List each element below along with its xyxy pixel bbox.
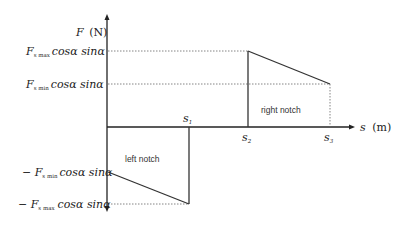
right-notch-shape [248, 51, 330, 127]
x-axis-arrow-right-icon [349, 125, 355, 130]
force-displacement-diagram: F (N) s (m) Fs maxcosα sinα Fs mincosα s… [0, 0, 401, 239]
x-tick-s1: s1 [183, 112, 192, 125]
x-axis-label: s (m) [360, 121, 391, 134]
x-axis [107, 125, 355, 130]
y-tick-neg-min: − Fs mincosα sinα [22, 166, 113, 179]
left-notch-shape [108, 127, 189, 204]
y-axis [105, 14, 110, 212]
left-notch-label: left notch [125, 154, 160, 164]
y-tick-neg-max: − Fs maxcosα sinα [18, 198, 111, 211]
y-tick-pos-max: Fs maxcosα sinα [25, 45, 105, 58]
y-axis-label: F (N) [75, 26, 107, 39]
y-axis-arrow-up-icon [105, 14, 110, 20]
right-notch-label: right notch [261, 105, 301, 115]
x-tick-s3: s3 [324, 131, 334, 144]
y-tick-pos-min: Fs mincosα sinα [25, 78, 104, 91]
x-tick-s2: s2 [242, 131, 252, 144]
